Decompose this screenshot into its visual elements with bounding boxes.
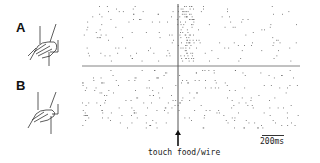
touch-event-label: touch food/wire [148,148,220,157]
hand-grasp-wire-icon [20,90,64,134]
hand-grasp-food-icon [20,22,64,66]
touch-arrow-icon [175,130,181,146]
spike-raster-plot [82,4,300,132]
scale-bar [262,135,284,136]
scale-bar-label: 200ms [260,137,284,146]
